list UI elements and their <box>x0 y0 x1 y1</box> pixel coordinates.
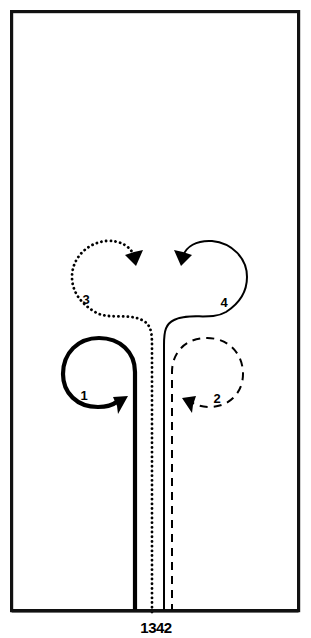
trace-4-arrowhead <box>174 250 192 266</box>
trace-4-group <box>164 241 247 612</box>
trace-label-3: 3 <box>82 292 89 307</box>
trace-1-path <box>63 338 135 612</box>
trace-2-arrowhead <box>182 396 196 413</box>
trace-3-arrowhead <box>125 250 143 266</box>
trace-label-4: 4 <box>220 295 228 310</box>
figure-frame <box>12 12 299 611</box>
figure-canvas: 1 2 3 4 1342 <box>0 0 311 638</box>
trace-label-1: 1 <box>80 388 87 403</box>
trace-2-group <box>172 338 243 612</box>
baseline-axis-label: 1342 <box>140 619 172 636</box>
trace-label-2: 2 <box>213 391 220 406</box>
trace-2-path <box>172 338 243 612</box>
trace-1-group <box>63 338 135 612</box>
figure-root: 1 2 3 4 1342 <box>0 0 311 638</box>
trace-4-path <box>164 241 247 612</box>
